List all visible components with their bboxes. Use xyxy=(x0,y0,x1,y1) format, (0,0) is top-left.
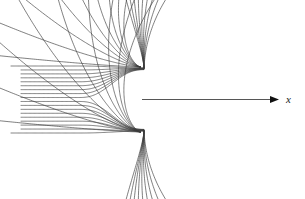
streamline-figure: x xyxy=(0,0,305,199)
streamline-canvas xyxy=(0,0,305,199)
x-axis-label: x xyxy=(286,94,291,105)
